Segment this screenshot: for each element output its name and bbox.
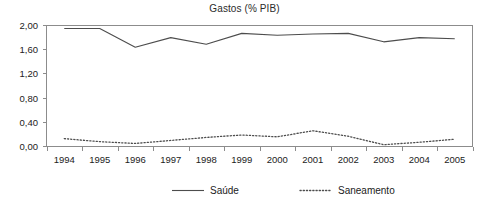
chart-container: Gastos (% PIB) 2,00 1,60 1,20 0,80 0,40 … <box>0 0 489 206</box>
chart-legend: Saúde Saneamento <box>172 185 395 196</box>
x-tick-label: 1996 <box>125 154 146 165</box>
chart-plot-svg: 2,00 1,60 1,20 0,80 0,40 0,00 1994199519… <box>0 0 489 206</box>
x-tick-label: 2000 <box>267 154 288 165</box>
y-tick-label: 1,20 <box>20 68 39 79</box>
y-tick-label: 0,40 <box>20 117 39 128</box>
x-tick-label: 1999 <box>231 154 252 165</box>
x-axis-ticks <box>48 147 474 151</box>
x-tick-label: 2003 <box>373 154 394 165</box>
series-group <box>64 29 455 145</box>
x-tick-label: 2001 <box>302 154 323 165</box>
y-tick-label: 0,00 <box>20 141 39 152</box>
x-tick-label: 1997 <box>160 154 181 165</box>
x-axis-labels: 1994199519961997199819992000200120022003… <box>54 154 466 165</box>
y-tick-label: 0,80 <box>20 93 39 104</box>
series-line-saude <box>64 29 455 48</box>
plot-frame <box>47 26 473 147</box>
y-axis-ticks: 2,00 1,60 1,20 0,80 0,40 0,00 <box>20 20 47 152</box>
x-tick-label: 1998 <box>196 154 217 165</box>
y-tick-label: 2,00 <box>20 20 39 31</box>
x-tick-label: 1994 <box>54 154 75 165</box>
x-tick-label: 1995 <box>89 154 110 165</box>
x-tick-label: 2002 <box>338 154 359 165</box>
x-tick-label: 2005 <box>444 154 465 165</box>
legend-label-saneamento: Saneamento <box>338 185 395 196</box>
series-line-saneamento <box>64 131 455 145</box>
legend-label-saude: Saúde <box>210 185 239 196</box>
y-tick-label: 1,60 <box>20 44 39 55</box>
x-tick-label: 2004 <box>409 154 430 165</box>
